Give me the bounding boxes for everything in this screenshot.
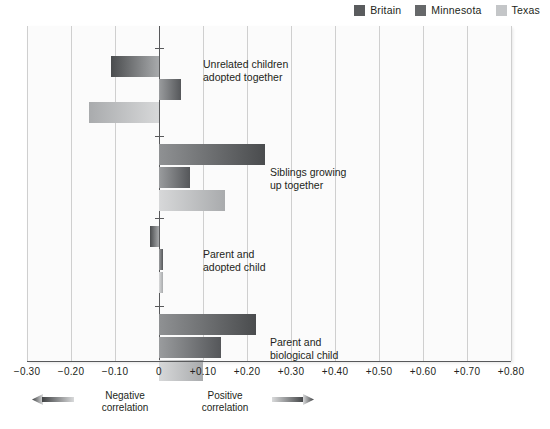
bar-minnesota-group-3 xyxy=(159,249,163,270)
bar-minnesota-group-2 xyxy=(159,167,190,188)
legend-swatch-britain xyxy=(354,5,365,16)
x-tick-label-3: 0 xyxy=(137,366,181,377)
bar-britain-group-1 xyxy=(111,56,159,77)
positive-correlation-caption: Positive correlation xyxy=(180,390,270,414)
category-tick-1 xyxy=(155,48,164,49)
x-tick-label-9: +0.60 xyxy=(401,366,445,377)
category-tick-3 xyxy=(155,218,164,219)
gridline xyxy=(291,26,292,361)
arrow-left-icon xyxy=(32,394,74,405)
legend-label-texas: Texas xyxy=(512,4,540,16)
x-tick-label-4: +0.10 xyxy=(181,366,225,377)
x-tick-label-6: +0.30 xyxy=(269,366,313,377)
bar-texas-group-1 xyxy=(89,102,159,123)
bar-minnesota-group-4 xyxy=(159,337,221,358)
x-tick-label-10: +0.70 xyxy=(445,366,489,377)
chart-plot-area: Unrelated children adopted togetherSibli… xyxy=(27,26,511,361)
group-label-1: Unrelated children adopted together xyxy=(203,58,288,84)
x-tick-label-5: +0.20 xyxy=(225,366,269,377)
legend-item-texas: Texas xyxy=(496,4,540,16)
gridline xyxy=(467,26,468,361)
x-tick-label-1: −0.20 xyxy=(49,366,93,377)
bar-texas-group-3 xyxy=(159,272,163,293)
legend-swatch-minnesota xyxy=(415,5,426,16)
negative-correlation-caption: Negative correlation xyxy=(80,390,170,414)
gridline xyxy=(379,26,380,361)
bar-minnesota-group-1 xyxy=(159,79,181,100)
x-tick-label-11: +0.80 xyxy=(489,366,533,377)
gridline xyxy=(71,26,72,361)
x-tick-label-8: +0.50 xyxy=(357,366,401,377)
legend-label-britain: Britain xyxy=(370,4,401,16)
bar-britain-group-4 xyxy=(159,314,256,335)
bar-britain-group-2 xyxy=(159,144,265,165)
gridline xyxy=(27,26,28,361)
category-tick-4 xyxy=(155,306,164,307)
chart-legend: Britain Minnesota Texas xyxy=(0,4,540,16)
legend-item-britain: Britain xyxy=(354,4,401,16)
legend-item-minnesota: Minnesota xyxy=(415,4,481,16)
group-label-4: Parent and biological child xyxy=(270,336,338,362)
group-label-3: Parent and adopted child xyxy=(203,248,265,274)
bar-britain-group-3 xyxy=(150,226,159,247)
legend-swatch-texas xyxy=(496,5,507,16)
gridline xyxy=(335,26,336,361)
legend-label-minnesota: Minnesota xyxy=(431,4,481,16)
category-tick-2 xyxy=(155,136,164,137)
arrow-right-icon xyxy=(272,394,314,405)
x-axis-line xyxy=(27,361,511,362)
x-tick-label-7: +0.40 xyxy=(313,366,357,377)
group-label-2: Siblings growing up together xyxy=(270,166,346,192)
x-tick-label-0: −0.30 xyxy=(5,366,49,377)
gridline xyxy=(423,26,424,361)
x-tick-label-2: −0.10 xyxy=(93,366,137,377)
bar-texas-group-2 xyxy=(159,190,225,211)
gridline xyxy=(511,26,512,361)
